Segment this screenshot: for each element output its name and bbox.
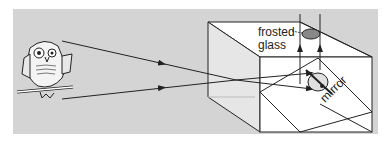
- frosted-glass-image: [302, 29, 320, 39]
- glass-label: glass: [258, 39, 286, 51]
- frosted-label: frosted: [258, 26, 295, 38]
- diagram-canvas: frosted glass mirror: [0, 0, 387, 142]
